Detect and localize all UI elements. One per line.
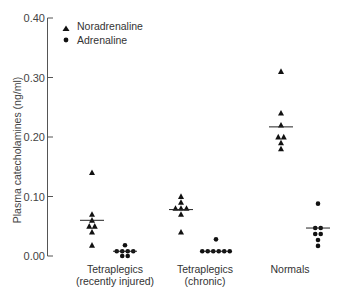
category-label-normals: Normals [270,263,309,275]
noradrenaline-point [178,229,184,235]
noradrenaline-point [278,146,284,152]
y-tick-label: 0.10 [24,191,45,203]
legend-noradrenaline: Noradrenaline [77,20,143,32]
noradrenaline-point [89,211,95,217]
data-points [80,68,330,258]
y-tick-label: 0.40 [24,12,45,24]
noradrenaline-point [178,193,184,199]
noradrenaline-point [89,229,95,235]
adrenaline-point [316,238,321,243]
adrenaline-point [123,243,128,248]
noradrenaline-point [178,211,184,217]
legend: Noradrenaline Adrenaline [63,20,144,46]
legend-adrenaline: Adrenaline [77,34,127,46]
x-axis-categories: Tetraplegics (recently injured) Tetraple… [76,263,310,287]
y-tick-label: 0.00 [24,250,45,262]
category-label-recently-injured-sub: (recently injured) [76,275,154,287]
noradrenaline-point [86,223,92,229]
adrenaline-point [214,237,219,242]
noradrenaline-point [278,140,284,146]
noradrenaline-point [89,170,95,176]
adrenaline-point [318,232,323,237]
noradrenaline-point [281,134,287,140]
chart: Plasma catecholamines (ng/ml) 0.000.100.… [0,0,340,295]
noradrenaline-point [92,223,98,229]
noradrenaline-point [278,110,284,116]
adrenaline-point [316,244,321,249]
category-label-chronic-sub: (chronic) [185,275,226,287]
adrenaline-point [120,254,125,259]
y-tick-label: 0.20 [24,131,45,143]
noradrenaline-point [278,68,284,74]
triangle-marker-icon [63,26,70,32]
circle-marker-icon [64,38,69,43]
category-label-chronic: Tetraplegics [177,263,233,275]
y-axis: 0.000.100.200.300.40 [24,12,53,262]
adrenaline-point [200,249,205,254]
noradrenaline-point [275,134,281,140]
noradrenaline-point [89,242,95,248]
adrenaline-point [227,249,232,254]
adrenaline-point [313,232,318,237]
adrenaline-point [125,254,130,259]
y-tick-label: 0.30 [24,72,45,84]
y-axis-label: Plasma catecholamines (ng/ml) [11,77,23,223]
noradrenaline-point [178,199,184,205]
adrenaline-point [316,201,321,206]
category-label-recently-injured: Tetraplegics [87,263,143,275]
